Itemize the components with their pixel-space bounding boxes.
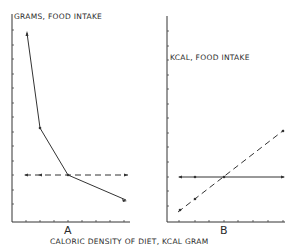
panel-a-letter: A xyxy=(64,224,72,237)
panel-a-y-label: GRAMS, FOOD INTAKE xyxy=(14,12,102,21)
chart-figure: GRAMS, FOOD INTAKE A xyxy=(0,0,295,250)
panel-b-y-label: KCAL, FOOD INTAKE xyxy=(170,53,250,62)
panel-b: KCAL, FOOD INTAKE B xyxy=(167,16,285,237)
panel-a-markers xyxy=(24,31,128,202)
x-axis-label: CALORIC DENSITY OF DIET, KCAL GRAM xyxy=(50,237,209,246)
panel-a: GRAMS, FOOD INTAKE A xyxy=(12,12,130,237)
panel-b-dashed-line xyxy=(178,130,284,212)
panel-b-letter: B xyxy=(220,224,228,237)
